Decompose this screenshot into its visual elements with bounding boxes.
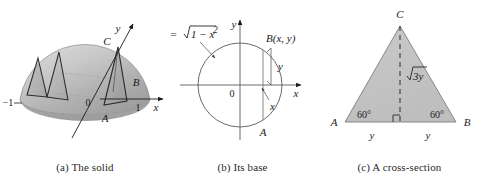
base-diagram: y = 1 − x 2 y x 0 B(x, y) A y x [170, 0, 315, 150]
label-segment-y: y [277, 60, 283, 72]
curve-equation-group: y = 1 − x 2 [170, 25, 218, 40]
label-base-x-axis: x [293, 87, 299, 99]
caption-panel-b: (b) Its base [170, 161, 315, 173]
label-base-y-axis: y [231, 18, 237, 30]
caption-panel-c: (c) A cross-section [315, 161, 484, 173]
panel-the-solid: y x −1 1 0 A B C (a) The solid [0, 0, 170, 185]
label-height-radicand: 3y [412, 70, 424, 82]
equation-leader-line [200, 42, 215, 58]
y-measure-tip-bottom [267, 81, 271, 85]
label-point-c: C [103, 35, 111, 47]
panel-cross-section: A B C 60° 60° y y 3y (c) A cross-section [315, 0, 484, 185]
label-base-point-a: A [259, 126, 267, 138]
caption-panel-a: (a) The solid [0, 161, 170, 173]
label-vertex-a: A [330, 116, 338, 128]
label-angle-right: 60° [430, 109, 444, 120]
label-tick-minus-one: −1 [3, 97, 14, 108]
label-base-origin: 0 [230, 88, 235, 99]
label-origin: 0 [86, 97, 91, 108]
label-base-left: y [369, 129, 375, 141]
label-vertex-c: C [396, 8, 404, 20]
cross-section-diagram: A B C 60° 60° y y 3y [315, 0, 484, 150]
figure-container: y x −1 1 0 A B C (a) The solid [0, 0, 484, 185]
equation-radicand: 1 − x [191, 28, 214, 40]
label-base-right: y [425, 129, 431, 141]
label-tick-one: 1 [136, 102, 141, 113]
label-x-axis: x [153, 101, 159, 113]
label-point-b: B [133, 76, 140, 88]
y-measure-tip-top [267, 48, 271, 52]
label-vertex-b: B [464, 116, 471, 128]
label-angle-left: 60° [357, 109, 371, 120]
solid-diagram: y x −1 1 0 A B C [0, 0, 170, 150]
label-segment-x: x [269, 100, 275, 112]
label-point-a: A [101, 112, 109, 124]
label-point-b-coords: B(x, y) [266, 32, 296, 45]
equation-lhs: y = [170, 28, 177, 40]
panel-its-base: y = 1 − x 2 y x 0 B(x, y) A y x (b) Its … [170, 0, 315, 185]
label-y-axis: y [115, 22, 121, 34]
equation-exponent: 2 [213, 25, 218, 35]
